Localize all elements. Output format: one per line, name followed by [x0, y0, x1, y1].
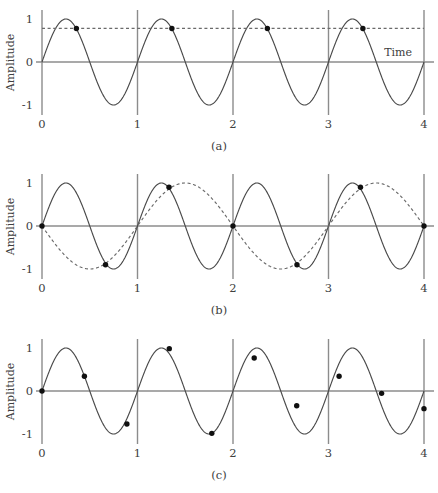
ytick-label: -1: [22, 98, 33, 112]
chart-panel-c: 10-101234Amplitude(c): [0, 329, 438, 493]
sample-point: [358, 185, 363, 190]
xtick-label: 2: [229, 446, 236, 460]
xtick-label: 4: [420, 446, 427, 460]
sample-point: [230, 223, 235, 228]
sample-point: [294, 403, 299, 408]
sample-point: [124, 421, 129, 426]
xtick-label: 3: [325, 117, 332, 131]
xtick-label: 3: [325, 281, 332, 295]
xtick-label: 4: [420, 281, 427, 295]
ytick-label: 1: [26, 12, 33, 26]
ytick-label: -1: [22, 427, 33, 441]
xtick-label: 0: [38, 117, 45, 131]
y-axis-title: Amplitude: [4, 363, 17, 422]
panel-caption-a: (a): [211, 139, 227, 153]
sample-point: [336, 374, 341, 379]
xtick-label: 2: [229, 281, 236, 295]
xtick-label: 0: [38, 446, 45, 460]
sample-point: [265, 26, 270, 31]
xtick-label: 0: [38, 281, 45, 295]
sample-point: [294, 262, 299, 267]
chart-panel-b: 10-101234Amplitude(b): [0, 164, 438, 328]
sample-point: [169, 26, 174, 31]
sampling-figure: 10-101234AmplitudeTime(a) 10-101234Ampli…: [0, 0, 438, 493]
xtick-label: 1: [134, 446, 141, 460]
sample-point: [74, 26, 79, 31]
ytick-label: 0: [26, 219, 33, 233]
sample-point: [167, 346, 172, 351]
panel-caption-c: (c): [211, 468, 226, 482]
xtick-label: 4: [420, 117, 427, 131]
sample-point: [379, 391, 384, 396]
sample-point: [166, 185, 171, 190]
sample-point: [252, 355, 257, 360]
ytick-label: 1: [26, 341, 33, 355]
sample-point: [209, 431, 214, 436]
xtick-label: 2: [229, 117, 236, 131]
sample-point: [360, 26, 365, 31]
ytick-label: -1: [22, 262, 33, 276]
chart-b: 10-101234Amplitude(b): [0, 164, 438, 328]
sample-point: [103, 262, 108, 267]
ytick-label: 0: [26, 384, 33, 398]
panel-caption-b: (b): [211, 303, 227, 317]
xtick-label: 1: [134, 281, 141, 295]
sample-point: [421, 406, 426, 411]
chart-a: 10-101234AmplitudeTime(a): [0, 0, 438, 164]
y-axis-title: Amplitude: [4, 198, 17, 257]
chart-c: 10-101234Amplitude(c): [0, 329, 438, 493]
xtick-label: 1: [134, 117, 141, 131]
sample-point: [421, 223, 426, 228]
sample-point: [82, 374, 87, 379]
sample-point: [39, 388, 44, 393]
xtick-label: 3: [325, 446, 332, 460]
chart-panel-a: 10-101234AmplitudeTime(a): [0, 0, 438, 164]
ytick-label: 0: [26, 55, 33, 69]
y-axis-title: Amplitude: [4, 34, 17, 93]
sample-point: [39, 223, 44, 228]
x-axis-title: Time: [384, 46, 412, 59]
ytick-label: 1: [26, 176, 33, 190]
